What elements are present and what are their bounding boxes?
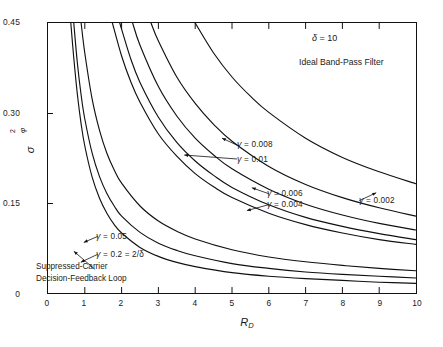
x-tick-label-8: 8 — [341, 298, 346, 308]
gamma-value-0004: = 0.004 — [274, 200, 303, 209]
gamma-value-02: = 0.2 = 2/δ — [103, 250, 144, 259]
curve-7 — [195, 23, 416, 184]
gamma-value-0006: = 0.006 — [274, 189, 303, 198]
annotation-gamma-005: γ = 0.05 — [96, 231, 127, 241]
x-tick-label-9: 9 — [378, 298, 383, 308]
annotation-gamma-0008: γ = 0.008 — [237, 139, 273, 149]
delta-value: = 10 — [317, 33, 337, 43]
x-tick-label-4: 4 — [193, 298, 198, 308]
y-tick-mark-030 — [47, 113, 53, 114]
x-tick-label-2: 2 — [119, 298, 124, 308]
y-tick-label-0: 0 — [15, 289, 20, 299]
y-tick-mark-015 — [47, 203, 53, 204]
figure-chart: 0.45 0.30 0.15 0 0 1 2 3 4 5 6 7 8 9 10 … — [0, 0, 443, 347]
x-tick-label-10: 10 — [412, 298, 422, 308]
x-tick-label-3: 3 — [156, 298, 161, 308]
gamma-symbol-0004: γ — [267, 199, 272, 209]
y-axis-subscript: φ — [18, 128, 27, 133]
x-tick-label-5: 5 — [230, 298, 235, 308]
gamma-symbol-0002: γ — [359, 195, 364, 205]
gamma-symbol-02: γ — [96, 249, 101, 259]
gamma-symbol-0006: γ — [267, 188, 272, 198]
leader-arrowhead — [184, 154, 188, 157]
gamma-symbol-005: γ — [96, 231, 101, 241]
x-tick-label-1: 1 — [82, 298, 87, 308]
x-axis-title-sub: D — [248, 321, 253, 330]
y-tick-label-015: 0.15 — [3, 198, 20, 208]
annotation-gamma-02: γ = 0.2 = 2/δ — [96, 249, 144, 259]
annotation-gamma-001: γ = 0.01 — [237, 154, 268, 164]
x-axis-title: RD — [240, 316, 253, 330]
x-tick-label-7: 7 — [304, 298, 309, 308]
gamma-symbol-0008: γ — [237, 139, 242, 149]
annotation-gamma-0006: γ = 0.006 — [267, 188, 303, 198]
annotation-gamma-0002: γ = 0.002 — [359, 195, 395, 205]
y-axis-title: σ2φ — [13, 133, 47, 167]
annotation-gamma-0004: γ = 0.004 — [267, 199, 303, 209]
y-axis-sigma-symbol: σ — [24, 147, 36, 154]
annotation-filter-type: Ideal Band-Pass Filter — [299, 57, 384, 67]
y-axis-superscript: 2 — [9, 129, 16, 133]
reference-loop-line-1: Suppressed-Carrier — [36, 261, 127, 273]
x-tick-label-0: 0 — [45, 298, 50, 308]
gamma-value-0002: = 0.002 — [366, 196, 395, 205]
gamma-value-001: = 0.01 — [244, 155, 268, 164]
gamma-value-005: = 0.05 — [103, 232, 127, 241]
y-tick-label-030: 0.30 — [3, 108, 20, 118]
leader-arrowhead — [252, 188, 256, 191]
reference-loop-line-2: Decision-Feedback Loop — [36, 273, 127, 285]
gamma-value-0008: = 0.008 — [244, 140, 273, 149]
gamma-symbol-001: γ — [237, 154, 242, 164]
y-tick-label-045: 0.45 — [3, 17, 20, 27]
x-tick-label-6: 6 — [267, 298, 272, 308]
annotation-reference-loop: Suppressed-Carrier Decision-Feedback Loo… — [36, 261, 127, 284]
x-axis-title-main: R — [240, 316, 248, 328]
annotation-delta: δ = 10 — [312, 33, 337, 43]
